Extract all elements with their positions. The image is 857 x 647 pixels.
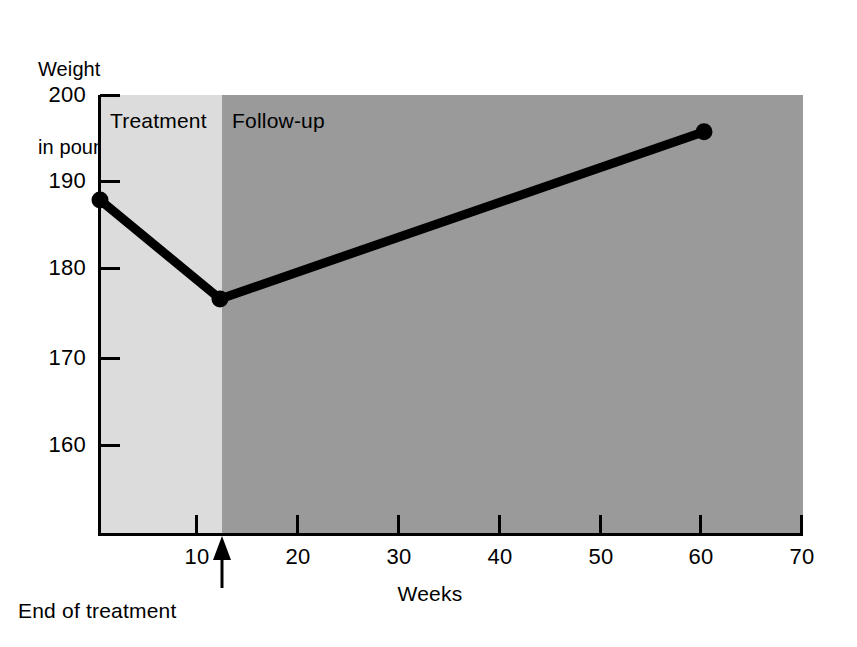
x-axis-title: Weeks <box>340 583 520 604</box>
y-tick-label-160: 160 <box>24 434 86 456</box>
x-tick-60 <box>699 515 702 536</box>
y-tick-160 <box>100 444 120 447</box>
chart-canvas: Weight in pounds Treatment Follow-up 200… <box>0 0 857 647</box>
band-treatment <box>100 95 222 533</box>
x-tick-50 <box>599 515 602 536</box>
y-tick-label-180: 180 <box>24 257 86 279</box>
band-label-followup: Follow-up <box>232 110 325 131</box>
x-tick-label-10: 10 <box>167 546 227 568</box>
y-tick-190 <box>100 180 120 183</box>
x-axis-line <box>98 533 803 536</box>
y-tick-180 <box>100 267 120 270</box>
y-tick-170 <box>100 357 120 360</box>
y-tick-label-170: 170 <box>24 347 86 369</box>
y-tick-200 <box>100 94 120 97</box>
x-tick-40 <box>498 515 501 536</box>
x-tick-label-70: 70 <box>772 546 832 568</box>
x-tick-20 <box>296 515 299 536</box>
y-tick-label-190: 190 <box>24 170 86 192</box>
x-tick-label-60: 60 <box>671 546 731 568</box>
y-axis-title-line1: Weight <box>38 56 126 82</box>
y-axis-line <box>98 95 101 536</box>
band-followup <box>222 95 803 533</box>
band-label-treatment: Treatment <box>110 110 207 131</box>
x-tick-10 <box>195 515 198 536</box>
x-tick-30 <box>397 515 400 536</box>
end-of-treatment-label: End of treatment <box>18 600 176 621</box>
y-tick-label-200: 200 <box>24 84 86 106</box>
x-tick-label-20: 20 <box>268 546 328 568</box>
x-tick-label-40: 40 <box>470 546 530 568</box>
x-tick-label-30: 30 <box>369 546 429 568</box>
x-axis-right-cap <box>800 515 803 536</box>
x-tick-label-50: 50 <box>571 546 631 568</box>
